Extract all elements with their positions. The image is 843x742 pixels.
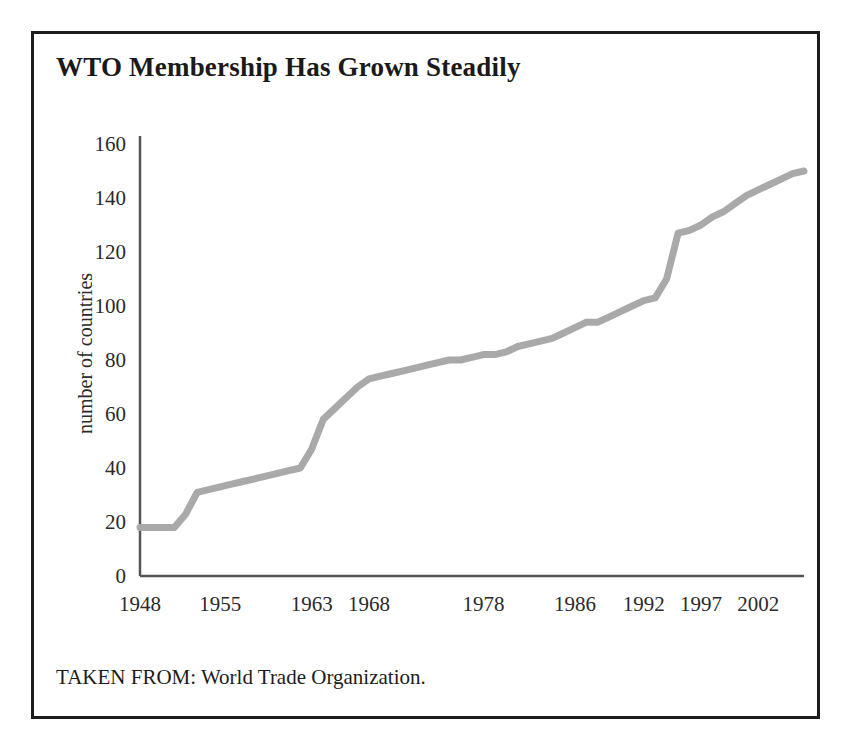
- y-tick-label: 140: [95, 186, 127, 210]
- x-tick-label: 2002: [737, 592, 779, 616]
- y-tick-label: 20: [105, 510, 126, 534]
- y-tick-label: 60: [105, 402, 126, 426]
- x-axis-tick-labels: 194819551963196819781986199219972002: [119, 592, 779, 616]
- figure-frame: WTO Membership Has Grown Steadily 020406…: [31, 31, 820, 719]
- x-tick-label: 1968: [348, 592, 390, 616]
- x-tick-label: 1992: [623, 592, 665, 616]
- plot-region: 020406080100120140160 194819551963196819…: [34, 34, 823, 722]
- x-tick-label: 1997: [680, 592, 722, 616]
- y-axis-title: number of countries: [74, 273, 97, 434]
- x-tick-label: 1948: [119, 592, 161, 616]
- y-tick-label: 100: [95, 294, 127, 318]
- y-axis-tick-labels: 020406080100120140160: [95, 132, 127, 588]
- x-tick-label: 1978: [462, 592, 504, 616]
- source-caption: TAKEN FROM: World Trade Organization.: [56, 665, 426, 690]
- y-tick-label: 120: [95, 240, 127, 264]
- x-tick-label: 1963: [291, 592, 333, 616]
- y-tick-label: 160: [95, 132, 127, 156]
- y-tick-label: 40: [105, 456, 126, 480]
- y-tick-label: 0: [116, 564, 127, 588]
- x-tick-label: 1986: [554, 592, 596, 616]
- x-tick-label: 1955: [199, 592, 241, 616]
- data-series-line: [140, 171, 804, 527]
- line-chart-svg: 020406080100120140160 194819551963196819…: [34, 34, 823, 722]
- y-tick-label: 80: [105, 348, 126, 372]
